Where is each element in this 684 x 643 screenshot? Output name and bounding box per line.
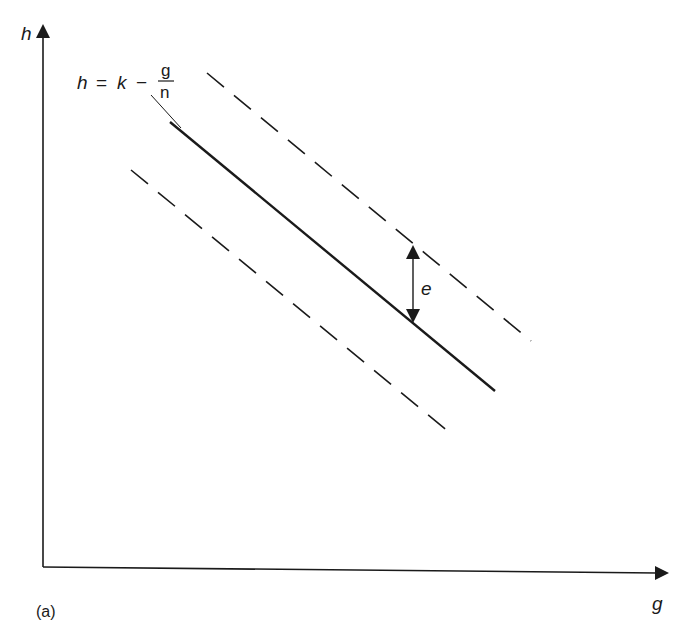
y-axis — [36, 24, 50, 567]
x-axis — [43, 566, 669, 580]
arrow-down-icon — [406, 309, 420, 323]
equation-denominator: n — [160, 83, 169, 102]
equation-numerator: g — [161, 61, 170, 80]
x-axis-arrow-icon — [655, 566, 669, 580]
arrow-up-icon — [406, 245, 420, 259]
x-axis-label: g — [652, 593, 663, 614]
y-axis-arrow-icon — [36, 24, 50, 38]
equation-label: h = k − g n — [77, 61, 174, 102]
equation-minus: − — [136, 72, 147, 93]
lower-bound-line — [131, 170, 455, 437]
error-band-arrow — [406, 245, 420, 323]
panel-label: (a) — [36, 603, 56, 620]
equation-equals: = — [96, 72, 107, 93]
diagram-canvas: h g (a) h = k − g n e — [0, 0, 684, 643]
equation-k: k — [117, 72, 128, 93]
central-line — [170, 122, 495, 391]
error-band-label: e — [421, 278, 432, 299]
upper-bound-line — [207, 73, 531, 341]
y-axis-label: h — [21, 23, 32, 44]
equation-lhs: h — [77, 72, 88, 93]
